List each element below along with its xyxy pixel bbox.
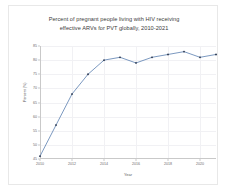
x-tick-label: 2012 (68, 162, 76, 166)
data-point-marker (215, 53, 217, 55)
x-tick-label: 2016 (132, 162, 140, 166)
x-tick-mark (72, 159, 73, 161)
x-tick-label: 2018 (164, 162, 172, 166)
x-axis-label: Year (40, 172, 216, 177)
y-tick-label: 80 (33, 58, 37, 62)
chart-title-line-2: effective ARVs for PVT globally, 2010-20… (17, 24, 211, 33)
x-tick-mark (168, 159, 169, 161)
data-point-marker (119, 56, 121, 58)
y-tick-label: 55 (33, 129, 37, 133)
x-tick-label: 2010 (36, 162, 44, 166)
y-tick-label: 85 (33, 44, 37, 48)
data-point-marker (167, 53, 169, 55)
series-polyline (40, 52, 216, 157)
y-tick-label: 60 (33, 115, 37, 119)
data-point-marker (183, 51, 185, 53)
x-tick-label: 2014 (100, 162, 108, 166)
chart-card: Percent of pregnant people living with H… (8, 5, 218, 185)
x-tick-mark (40, 159, 41, 161)
y-tick-label: 75 (33, 72, 37, 76)
series-markers (39, 51, 217, 158)
data-series-line (40, 46, 216, 159)
data-point-marker (199, 56, 201, 58)
y-tick-label: 65 (33, 101, 37, 105)
chart-title: Percent of pregnant people living with H… (17, 15, 211, 32)
plot-area: 455055606570758085 201020122014201620182… (40, 46, 216, 159)
data-point-marker (151, 56, 153, 58)
y-tick-label: 50 (33, 143, 37, 147)
x-tick-mark (104, 159, 105, 161)
data-point-marker (135, 62, 137, 64)
y-tick-label: 45 (33, 157, 37, 161)
x-tick-label: 2020 (196, 162, 204, 166)
y-tick-label: 70 (33, 86, 37, 90)
x-tick-mark (200, 159, 201, 161)
chart-title-line-1: Percent of pregnant people living with H… (49, 16, 180, 22)
y-axis-label: Percent (%) (23, 83, 27, 102)
x-tick-mark (136, 159, 137, 161)
